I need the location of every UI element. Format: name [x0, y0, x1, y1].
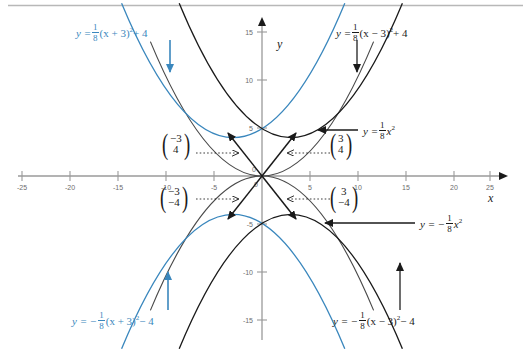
axis-group: -25 -20 -15 -10 -5 5 10 15 20 25 [17, 25, 500, 340]
eq-lhs: y = [363, 125, 378, 137]
eq-lhs: y = − [420, 218, 445, 230]
vector-dy: −4 [338, 197, 350, 208]
fraction-one-eighth: 18 [379, 121, 386, 141]
fraction-one-eighth: 18 [359, 311, 366, 331]
equation-label-top-left: y =18(x + 3)2+ 4 [76, 24, 148, 44]
x-axis-label: x [487, 191, 494, 205]
vector-label-down-left: ( −3 −4 ) [158, 186, 190, 208]
equation-label-bottom-left: y = −18(x + 3)2− 4 [72, 312, 154, 332]
fraction-numerator: 1 [92, 23, 99, 32]
eq-exponent: 2 [391, 124, 395, 132]
eq-rest: (x − 3) [367, 315, 397, 327]
translation-arrow-up-left [228, 133, 262, 176]
eq-rest: (x + 3) [100, 27, 130, 39]
curve-blue-down [122, 214, 345, 348]
translation-arrow-down-left [228, 176, 262, 219]
paren-open: ( [330, 133, 336, 155]
paren-close: ) [345, 133, 351, 155]
y-axis-label: y [276, 37, 283, 51]
vector-label-up-left: ( −3 4 ) [160, 133, 192, 155]
paren-close: ) [352, 186, 358, 208]
vector-dy: 4 [338, 144, 344, 155]
fraction-one-eighth: 18 [446, 214, 453, 234]
y-tick-label: -10 [243, 269, 253, 276]
y-tick-label: 10 [245, 77, 253, 84]
vector-dy: −4 [168, 197, 180, 208]
fraction-numerator: 1 [352, 23, 359, 32]
x-tick-label: -25 [17, 184, 27, 191]
fraction-denominator: 8 [359, 320, 366, 331]
paren-close: ) [182, 186, 188, 208]
eq-tail: − 4 [400, 315, 414, 327]
eq-tail: + 4 [133, 27, 147, 39]
fraction-numerator: 1 [98, 311, 105, 320]
vector-components: −3 4 [170, 133, 182, 155]
x-tick-label: 15 [402, 184, 410, 191]
paren-close: ) [184, 133, 190, 155]
vector-dy: 4 [173, 144, 179, 155]
eq-lhs: y = [76, 27, 91, 39]
equation-label-top-right: y =18(x − 3)2+ 4 [336, 24, 408, 44]
fraction-numerator: 1 [379, 121, 386, 130]
vector-components: 3 4 [338, 133, 344, 155]
x-tick-label: -20 [65, 184, 75, 191]
translation-arrow-up-right [262, 133, 296, 176]
equation-label-base-down: y = −18x2 [420, 215, 462, 235]
fraction-numerator: 1 [446, 214, 453, 223]
x-tick-label: -15 [113, 184, 123, 191]
eq-tail: − 4 [139, 315, 153, 327]
eq-rest: (x − 3) [360, 27, 390, 39]
fraction-denominator: 8 [92, 32, 99, 43]
equation-label-bottom-right: y = −18(x − 3)2− 4 [333, 312, 415, 332]
x-tick-label: 5 [308, 184, 312, 191]
paren-open: ( [162, 133, 168, 155]
coordinate-plot: -25 -20 -15 -10 -5 5 10 15 20 25 [0, 0, 531, 349]
callout-arrows [168, 40, 415, 310]
paren-open: ( [160, 186, 166, 208]
fraction-numerator: 1 [359, 311, 366, 320]
x-tick-label: 20 [450, 184, 458, 191]
fraction-one-eighth: 18 [352, 23, 359, 43]
eq-rest: (x + 3) [106, 315, 136, 327]
vector-label-up-right: ( 3 4 ) [328, 133, 354, 155]
translation-arrow-down-right [262, 176, 296, 219]
fraction-denominator: 8 [379, 130, 386, 141]
eq-lhs: y = − [72, 315, 97, 327]
eq-lhs: y = [336, 27, 351, 39]
fraction-denominator: 8 [446, 223, 453, 234]
fraction-one-eighth: 18 [92, 23, 99, 43]
x-tick-label: -5 [211, 184, 217, 191]
equation-label-base-up: y =18x2 [363, 122, 395, 142]
y-tick-label: 15 [245, 29, 253, 36]
curve-blue-up [122, 3, 345, 137]
eq-tail: + 4 [393, 27, 407, 39]
y-tick-label: -15 [243, 317, 253, 324]
vector-label-down-right: ( 3 −4 ) [328, 186, 360, 208]
fraction-denominator: 8 [98, 320, 105, 331]
paren-open: ( [330, 186, 336, 208]
y-tick-label: 5 [249, 125, 253, 132]
eq-exponent: 2 [459, 217, 463, 225]
y-tick-label: -5 [247, 221, 253, 228]
eq-lhs: y = − [333, 315, 358, 327]
figure-canvas: -25 -20 -15 -10 -5 5 10 15 20 25 [0, 0, 531, 349]
x-tick-label: 25 [486, 184, 494, 191]
fraction-one-eighth: 18 [98, 311, 105, 331]
fraction-denominator: 8 [352, 32, 359, 43]
vector-components: −3 −4 [168, 186, 180, 208]
vector-components: 3 −4 [338, 186, 350, 208]
